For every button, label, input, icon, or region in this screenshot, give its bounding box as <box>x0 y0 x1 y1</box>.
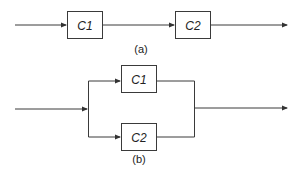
caption-b: (b) <box>132 153 145 165</box>
caption-a: (a) <box>134 43 147 55</box>
block-c2-label: C2 <box>131 131 147 145</box>
parallel-diagram: C1 C2 (b) <box>15 66 287 166</box>
block-c1-label: C1 <box>131 73 146 87</box>
block-c2-label: C2 <box>185 19 201 33</box>
block-diagrams: C1 C2 (a) C1 C2 (b) <box>0 0 301 176</box>
series-diagram: C1 C2 (a) <box>15 12 287 56</box>
block-c1-label: C1 <box>77 19 92 33</box>
